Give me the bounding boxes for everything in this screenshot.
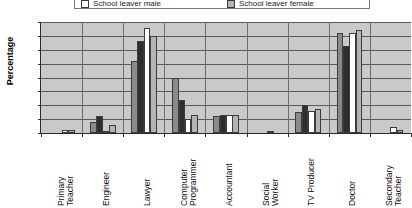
x-tick-mark (329, 133, 330, 137)
x-axis-label: TV Producer (307, 158, 316, 206)
bar (68, 130, 75, 133)
group-separator (123, 22, 124, 133)
x-tick-mark (82, 133, 83, 137)
x-tick-mark (41, 133, 42, 137)
y-tick-mark (38, 50, 41, 51)
group-separator (205, 22, 206, 133)
x-tick-mark (247, 133, 248, 137)
bar (191, 115, 198, 133)
legend-item-school-leaver-female: School leaver female (227, 0, 314, 8)
bar (109, 125, 116, 133)
legend-swatch-male (81, 0, 89, 8)
bar (315, 109, 322, 133)
x-axis-label: SocialWorker (262, 179, 280, 206)
bar (267, 131, 274, 133)
gridline (41, 22, 411, 23)
x-axis-label: Doctor (348, 181, 357, 206)
x-axis-label: Lawyer (143, 179, 152, 206)
plot-area: 4035302520151050 (40, 22, 411, 134)
group-separator (82, 22, 83, 133)
group-separator (329, 22, 330, 133)
x-tick-mark (123, 133, 124, 137)
group-separator (288, 22, 289, 133)
y-tick-mark (38, 119, 41, 120)
bar (232, 115, 239, 133)
x-axis-label: ComputerProgrammer (180, 159, 198, 206)
x-tick-mark (370, 133, 371, 137)
x-tick-mark (288, 133, 289, 137)
x-axis-label: Accountant (225, 163, 234, 206)
y-tick-mark (38, 91, 41, 92)
x-axis-label: SecondaryTeacher (385, 165, 403, 206)
group-separator (370, 22, 371, 133)
x-tick-mark (205, 133, 206, 137)
group-separator (164, 22, 165, 133)
group-separator (247, 22, 248, 133)
y-tick-mark (38, 64, 41, 65)
x-axis-label: PrimaryTeacher (57, 176, 75, 206)
y-tick-mark (38, 22, 41, 23)
y-tick-mark (38, 78, 41, 79)
chart-legend: School leaver male School leaver female (74, 0, 370, 9)
bar (356, 30, 363, 133)
legend-label-female: School leaver female (239, 0, 314, 8)
bar (150, 36, 157, 133)
y-tick-mark (38, 105, 41, 106)
legend-label-male: School leaver male (93, 0, 161, 8)
x-axis-label: Engineer (102, 172, 111, 206)
legend-swatch-female (227, 0, 235, 8)
bar (397, 130, 404, 133)
x-tick-mark (164, 133, 165, 137)
legend-item-school-leaver-male: School leaver male (81, 0, 161, 8)
y-axis-title: Percentage (5, 29, 15, 93)
y-tick-mark (38, 36, 41, 37)
